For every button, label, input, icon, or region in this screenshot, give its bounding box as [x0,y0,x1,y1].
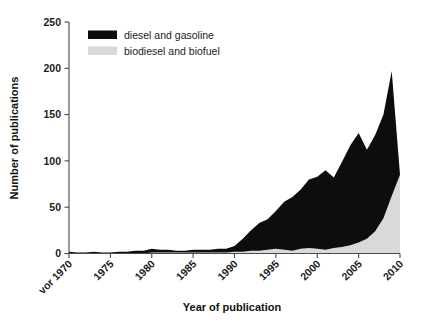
x-axis: vor 197019751980198519901995200020052010… [36,254,406,314]
y-tick-label: 100 [43,155,61,167]
area-diesel-and-gasoline [69,71,400,253]
x-tick-label: 1980 [132,257,157,282]
x-tick-label: 2005 [339,257,364,282]
x-tick-label: 2000 [298,257,323,282]
y-axis-ticks [65,22,70,254]
chart-legend: diesel and gasoline biodiesel and biofue… [88,29,220,57]
x-axis-title: Year of publication [183,301,282,313]
legend-label: biodiesel and biofuel [124,45,220,57]
x-tick-label: vor 1970 [36,257,75,296]
y-tick-label: 200 [43,62,61,74]
y-axis-tick-labels: 050100150200250 [43,16,61,260]
x-axis-tick-labels: vor 197019751980198519901995200020052010 [36,257,406,296]
y-axis-title: Number of publications [8,77,20,200]
y-tick-label: 0 [55,247,61,259]
x-tick-label: 1995 [256,257,281,282]
x-tick-label: 1990 [215,257,240,282]
chart-container: 050100150200250 Number of publications v… [0,0,422,325]
legend-item-diesel-and-gasoline: diesel and gasoline [88,29,214,41]
series-areas [69,71,400,253]
x-tick-label: 2010 [380,257,405,282]
legend-item-biodiesel-and-biofuel: biodiesel and biofuel [88,45,220,57]
legend-label: diesel and gasoline [124,29,214,41]
y-tick-label: 150 [43,108,61,120]
x-axis-ticks [69,254,400,259]
x-tick-label: 1975 [91,257,116,282]
x-tick-label: 1985 [174,257,199,282]
legend-swatch [88,47,117,56]
y-tick-label: 250 [43,16,61,28]
area-chart: 050100150200250 Number of publications v… [0,0,422,325]
y-tick-label: 50 [49,201,61,213]
y-axis: 050100150200250 Number of publications [8,16,69,260]
legend-swatch [88,31,117,40]
